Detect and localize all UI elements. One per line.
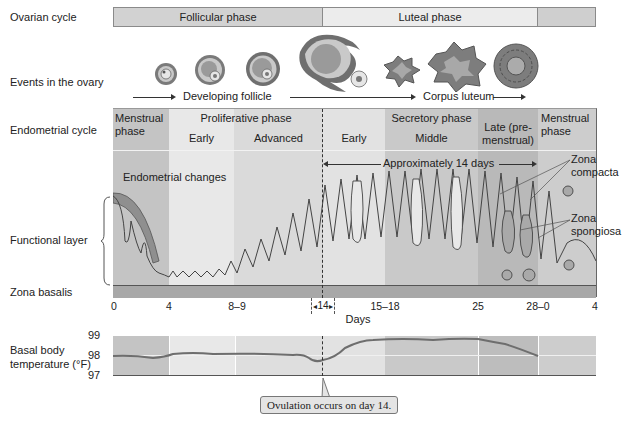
corpus-luteum-label: Corpus luteum xyxy=(423,90,495,102)
temp-tick-98: 98 xyxy=(88,349,100,361)
ovulation-dashed-line xyxy=(322,109,323,298)
day-tick-0: 0 xyxy=(111,300,117,312)
day-tick-8-9: 8–9 xyxy=(228,300,246,312)
early-corpus-luteum-icon xyxy=(384,56,420,87)
header-secretory-early: Early xyxy=(323,132,385,145)
header-menstrual-start: Menstrual phase xyxy=(115,112,169,138)
header-secretory-middle: Middle xyxy=(385,132,478,145)
primary-follicle-icon xyxy=(155,63,177,85)
days-axis-label: Days xyxy=(345,313,370,325)
row-label-zona-basalis: Zona basalis xyxy=(10,286,72,298)
day-tick-15-18: 15–18 xyxy=(370,300,399,312)
day-tick-14: ◂14▸ xyxy=(313,300,332,311)
secondary-follicle-icon xyxy=(195,55,225,85)
row-label-endometrial-cycle: Endometrial cycle xyxy=(10,124,97,136)
header-proliferative-phase: Proliferative phase xyxy=(169,112,323,125)
zona-spongiosa-line1: Zona xyxy=(571,212,621,225)
late-line1: Late (pre- xyxy=(478,121,538,134)
zona-leader-lines xyxy=(490,150,575,240)
header-menstrual-end: Menstrual phase xyxy=(541,112,593,138)
callout-pointer xyxy=(316,376,336,398)
temp-tick-99: 99 xyxy=(88,329,100,341)
header-proliferative-early: Early xyxy=(169,132,234,145)
zona-spongiosa-label: Zona spongiosa xyxy=(571,212,621,238)
bbt-label-line1: Basal body xyxy=(10,343,91,357)
developing-follicle-arrow: Developing follicle xyxy=(133,91,333,105)
follicular-phase-label: Follicular phase xyxy=(179,11,256,23)
ovary-events-illustration xyxy=(140,32,540,92)
tertiary-follicle-icon xyxy=(246,52,280,86)
temperature-chart xyxy=(113,336,596,376)
row-label-ovarian-cycle: Ovarian cycle xyxy=(10,11,77,23)
luteal-phase-bar: Luteal phase xyxy=(322,7,538,27)
day-tick-25: 25 xyxy=(472,300,484,312)
days-axis: 0 4 8–9 ◂14▸ 15–18 25 28–0 4 Days xyxy=(0,300,630,330)
row-label-basal-body-temperature: Basal body temperature (°F) xyxy=(10,343,91,371)
luteal-phase-label: Luteal phase xyxy=(399,11,462,23)
mature-corpus-luteum-icon xyxy=(428,42,486,92)
header-secretory-late: Late (pre- menstrual) xyxy=(478,121,538,147)
zona-compacta-line1: Zona xyxy=(571,153,619,166)
ovulation-callout: Ovulation occurs on day 14. xyxy=(260,396,398,414)
day-tick-4-next: 4 xyxy=(592,300,598,312)
day-14-value: 14 xyxy=(317,300,328,311)
day-tick-4: 4 xyxy=(166,300,172,312)
temperature-curve xyxy=(113,336,596,376)
late-line2: menstrual) xyxy=(478,134,538,147)
bbt-label-line2: temperature (°F) xyxy=(10,357,91,371)
developing-follicle-label: Developing follicle xyxy=(183,90,272,102)
zona-compacta-label: Zona compacta xyxy=(571,153,619,179)
ovarian-cycle-bar: Follicular phase Luteal phase xyxy=(113,7,596,27)
temp-tick-97: 97 xyxy=(88,369,100,381)
follicular-phase-bar: Follicular phase xyxy=(113,7,323,27)
zona-basalis-band xyxy=(113,285,596,298)
row-label-events-in-ovary: Events in the ovary xyxy=(10,76,104,88)
ovulating-follicle-icon xyxy=(299,35,367,92)
day-tick-28-0: 28–0 xyxy=(526,300,549,312)
header-proliferative-advanced: Advanced xyxy=(234,132,323,145)
next-follicular-bar xyxy=(537,7,596,27)
corpus-luteum-arrow: Corpus luteum xyxy=(333,91,508,105)
zona-spongiosa-line2: spongiosa xyxy=(571,225,621,238)
functional-layer-brace-icon xyxy=(100,196,112,286)
endometrial-changes-label: Endometrial changes xyxy=(123,171,226,183)
approx-14-days-label: Approximately 14 days xyxy=(383,157,494,169)
row-label-functional-layer: Functional layer xyxy=(10,234,88,246)
header-secretory-phase: Secretory phase xyxy=(385,112,478,125)
zona-compacta-line2: compacta xyxy=(571,166,619,179)
degenerating-corpus-luteum-icon xyxy=(494,44,538,88)
